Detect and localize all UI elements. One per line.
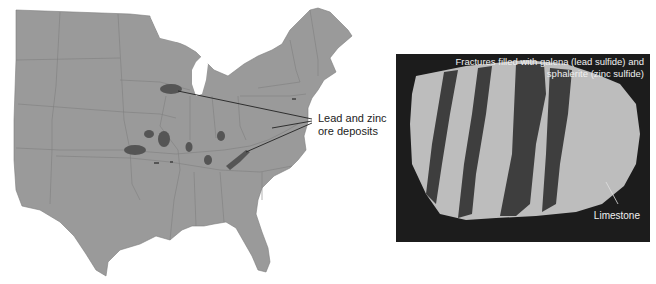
us-landmass — [14, 8, 352, 276]
deposit-central-tennessee — [204, 155, 212, 165]
deposit-central-missouri — [144, 130, 154, 138]
caption-line-1: Fractures filled with galena (lead sulfi… — [455, 56, 644, 68]
deposit-central-kentucky — [217, 131, 225, 141]
caption-line-2: sphalerite (zinc sulfide) — [455, 68, 644, 80]
us-map — [0, 0, 390, 284]
ore-sample-photo: Fractures filled with galena (lead sulfi… — [396, 54, 650, 242]
deposit-arkansas — [154, 162, 159, 164]
deposit-upper-mississippi — [160, 84, 182, 94]
photo-caption: Fractures filled with galena (lead sulfi… — [455, 56, 644, 80]
deposit-callout-label: Lead and zinc ore deposits — [318, 112, 387, 138]
callout-line-2: ore deposits — [318, 125, 387, 138]
deposit-tri-state — [124, 145, 146, 155]
deposit-southeast-missouri — [158, 131, 170, 147]
callout-line-1: Lead and zinc — [318, 112, 387, 125]
deposit-arkansas-2 — [170, 161, 173, 163]
limestone-label: Limestone — [594, 210, 640, 221]
deposit-illinois-kentucky — [186, 142, 193, 152]
deposit-pennsylvania — [292, 98, 296, 100]
